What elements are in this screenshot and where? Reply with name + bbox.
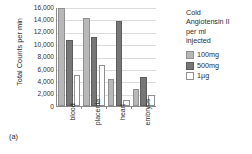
bar-group-blood	[57, 8, 82, 106]
x-label-cell: embryos	[131, 110, 156, 150]
legend-swatch-icon	[186, 62, 194, 70]
y-tick-label: 0	[14, 104, 54, 111]
legend-label: 100mg	[197, 51, 219, 59]
chart-legend: ColdAngiotensin IIper mlinjected 100mg50…	[186, 8, 250, 82]
x-tick-label-heart: heart	[119, 104, 126, 120]
legend-title-line: Angiotensin II	[186, 17, 250, 26]
x-label-cell: placenta	[81, 110, 106, 150]
bar-groups	[57, 8, 156, 106]
legend-title-line: injected	[186, 36, 250, 45]
legend-item-500mg[interactable]: 500mg	[186, 61, 250, 70]
legend-title: ColdAngiotensin IIper mlinjected	[186, 8, 250, 46]
figure-panel-a: Total Counts per min 16,00014,00012,0001…	[0, 0, 252, 154]
legend-title-line: per ml	[186, 27, 250, 36]
bar-placenta-100mg	[83, 18, 90, 106]
bar-group-embryos	[131, 8, 156, 106]
bar-placenta-500mg	[91, 37, 98, 106]
legend-items: 100mg500mg1µg	[186, 51, 250, 81]
y-tick-label: 16,000	[14, 5, 54, 12]
legend-swatch-icon	[186, 51, 194, 59]
x-tick-label-embryos: embryos	[144, 99, 151, 126]
legend-label: 500mg	[197, 62, 219, 70]
x-label-cell: heart	[106, 110, 131, 150]
x-axis-tick-labels: bloodplacentaheartembryos	[56, 110, 156, 150]
x-axis-tick-mark	[131, 106, 132, 109]
y-axis-tick-labels: 16,00014,00012,00010,0008,0006,0004,0002…	[14, 8, 54, 107]
y-tick-label: 2,000	[14, 91, 54, 98]
x-axis-tick-mark	[81, 106, 82, 109]
legend-item-1µg[interactable]: 1µg	[186, 72, 250, 81]
bar-embryos-100mg	[133, 89, 140, 106]
y-tick-label: 14,000	[14, 17, 54, 24]
x-label-cell: blood	[56, 110, 81, 150]
bar-heart-100mg	[108, 79, 115, 106]
plot-area	[56, 8, 156, 107]
y-tick-label: 12,000	[14, 29, 54, 36]
legend-item-100mg[interactable]: 100mg	[186, 51, 250, 60]
y-tick-label: 8,000	[14, 54, 54, 61]
y-tick-label: 4,000	[14, 79, 54, 86]
panel-caption: (a)	[9, 132, 18, 141]
legend-label: 1µg	[197, 72, 209, 80]
legend-title-line: Cold	[186, 8, 250, 17]
bar-blood-100mg	[58, 8, 65, 106]
x-axis-tick-mark	[106, 106, 107, 109]
y-tick-label: 10,000	[14, 42, 54, 49]
legend-swatch-icon	[186, 72, 194, 80]
x-tick-label-placenta: placenta	[94, 99, 101, 125]
bar-blood-500mg	[66, 40, 73, 106]
bar-group-heart	[107, 8, 132, 106]
bar-blood-1µg	[74, 75, 81, 106]
y-tick-label: 6,000	[14, 67, 54, 74]
bar-group-placenta	[82, 8, 107, 106]
x-tick-label-blood: blood	[69, 103, 76, 120]
bar-heart-500mg	[116, 21, 123, 106]
